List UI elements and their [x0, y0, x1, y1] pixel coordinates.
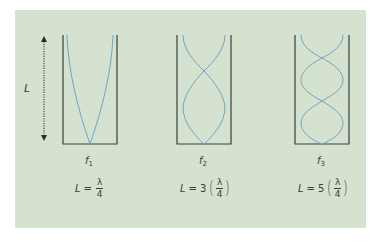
denominator: 4	[335, 189, 341, 199]
tube-1	[63, 35, 117, 144]
tube-1-wave-a	[67, 35, 90, 144]
equals-sign: =	[84, 183, 92, 194]
standing-wave-diagram	[0, 0, 377, 242]
frequency-label-f2: f2	[199, 156, 207, 168]
open-paren: (	[327, 180, 332, 197]
equals-sign: =	[307, 183, 315, 194]
tube-1-wave-b	[90, 35, 113, 144]
tube-3-wave-a	[301, 35, 343, 144]
fraction: λ 4	[334, 178, 341, 199]
fraction: λ 4	[216, 178, 223, 199]
tube-3	[295, 35, 349, 144]
equation-lhs: L	[180, 183, 186, 194]
frequency-subscript: 3	[321, 160, 325, 168]
equation-f3: L = 5 ( λ 4 )	[298, 178, 349, 199]
tube-1-walls	[63, 35, 117, 144]
coefficient: 3	[200, 183, 206, 194]
close-paren: )	[225, 180, 230, 197]
numerator: λ	[216, 178, 223, 189]
frequency-label-f3: f3	[317, 156, 325, 168]
tube-3-walls	[295, 35, 349, 144]
close-paren: )	[343, 180, 348, 197]
fraction: λ 4	[96, 178, 103, 199]
numerator: λ	[96, 178, 103, 189]
open-paren: (	[209, 180, 214, 197]
frequency-label-f1: f1	[85, 156, 93, 168]
denominator: 4	[217, 189, 223, 199]
equation-f1: L = λ 4	[75, 178, 104, 199]
frequency-subscript: 2	[203, 160, 207, 168]
equals-sign: =	[189, 183, 197, 194]
denominator: 4	[97, 189, 103, 199]
tube-3-wave-b	[301, 35, 343, 144]
equation-lhs: L	[298, 183, 304, 194]
equation-lhs: L	[75, 183, 81, 194]
frequency-subscript: 1	[89, 160, 93, 168]
numerator: λ	[334, 178, 341, 189]
length-label: L	[24, 83, 30, 94]
tube-2-walls	[177, 35, 231, 144]
tube-2	[177, 35, 231, 144]
coefficient: 5	[318, 183, 324, 194]
equation-f2: L = 3 ( λ 4 )	[180, 178, 231, 199]
